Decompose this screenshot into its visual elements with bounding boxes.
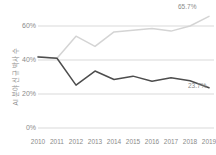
chart-container: AI 분야 신규 박사 수 60% 40% 20% 0% 20102011201… <box>0 0 216 155</box>
x-tick-label-2019: 2019 <box>198 138 216 146</box>
series-end-label-low: 23.7% <box>188 82 206 89</box>
plot-area <box>0 0 216 155</box>
series-lines <box>38 16 209 87</box>
series-line-low <box>38 57 209 88</box>
series-line-high <box>38 16 209 58</box>
series-end-label-high: 65.7% <box>178 3 196 10</box>
